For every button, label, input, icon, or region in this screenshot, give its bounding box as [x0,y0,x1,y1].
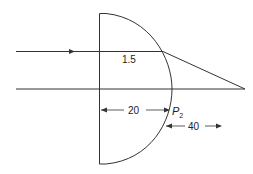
point-p2-label: P2 [172,105,183,119]
dimension-40: 40 [166,121,222,132]
dimension-40-label: 40 [188,121,200,132]
dimension-20: 20 [101,105,170,116]
ray-direction-arrow-icon [69,49,75,54]
refractive-index-label: 1.5 [122,54,136,65]
lens-diagram: 1.5 20 P2 40 [0,0,253,174]
refracted-ray [163,52,245,90]
dimension-20-label: 20 [128,105,140,116]
